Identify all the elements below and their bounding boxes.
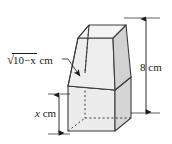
frustum-top bbox=[68, 25, 131, 90]
mid-edge-label: √10−x cm bbox=[7, 53, 53, 67]
mid-edge-unit: cm bbox=[39, 54, 52, 66]
base-height-label: x cm bbox=[35, 108, 56, 119]
base-height-unit: cm bbox=[43, 107, 56, 119]
square-root-expression: √10−x bbox=[7, 53, 37, 67]
total-height-label: 8 cm bbox=[140, 62, 162, 73]
cuboid-front-face bbox=[68, 86, 115, 131]
geometry-figure: 8 cm x cm √10−x cm bbox=[0, 0, 172, 144]
radical-icon: √ bbox=[7, 53, 14, 66]
radicand: 10−x bbox=[12, 53, 37, 67]
frustum-front-face bbox=[68, 38, 115, 90]
